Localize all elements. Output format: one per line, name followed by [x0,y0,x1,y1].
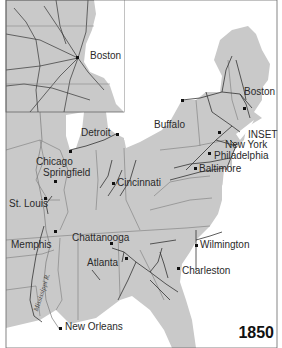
city-memphis: Memphis [11,240,52,250]
city-st-louis: St. Louis [9,199,48,209]
city-boston: Boston [244,87,275,97]
inset-city-boston: Boston [90,51,121,61]
city-springfield: Springfield [43,168,90,178]
city-chicago: Chicago [36,157,73,167]
city-buffalo: Buffalo [154,120,185,130]
city-cincinnati: Cincinnati [117,178,161,188]
city-detroit: Detroit [81,128,110,138]
railroad-map: Boston Boston Buffalo Detroit INSET New … [0,0,282,348]
city-baltimore: Baltimore [199,164,241,174]
city-philadelphia: Philadelphia [214,151,269,161]
city-charleston: Charleston [182,266,230,276]
city-chattanooga: Chattanooga [72,233,129,243]
city-atlanta: Atlanta [87,258,118,268]
city-wilmington: Wilmington [200,240,249,250]
city-new-orleans: New Orleans [65,322,123,332]
year-label: 1850 [238,324,274,342]
city-new-york: New York [225,140,267,150]
